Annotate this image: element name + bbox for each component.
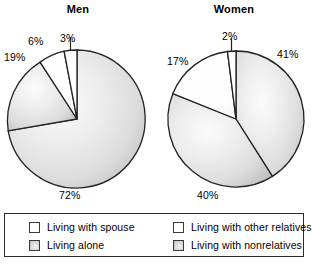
chart-title-men: Men [0, 3, 156, 15]
legend-swatch-icon-nonrelatives [173, 240, 184, 251]
legend-swatch-icon-spouse [29, 222, 40, 233]
legend-item-living-with-nonrelatives: Living with nonrelatives [173, 236, 312, 254]
legend-item-living-with-other-relatives: Living with other relatives [173, 218, 312, 236]
slice-label-men-other-relatives: 6% [28, 35, 43, 47]
slice-label-men-nonrelatives: 3% [60, 32, 75, 44]
slice-label-women-spouse: 41% [277, 48, 298, 60]
legend-label-other-relatives: Living with other relatives [191, 221, 312, 233]
legend-item-living-with-spouse: Living with spouse [29, 218, 135, 236]
slice-label-men-spouse: 72% [59, 189, 80, 201]
legend-swatch-icon-other-relatives [173, 222, 184, 233]
legend-label-spouse: Living with spouse [47, 221, 135, 233]
chart-legend: Living with spouse Living alone Living w… [4, 213, 304, 257]
legend-label-nonrelatives: Living with nonrelatives [191, 239, 302, 251]
slice-label-women-nonrelatives: 2% [222, 30, 237, 42]
slice-label-women-alone: 40% [197, 189, 218, 201]
slice-label-women-other-relatives: 17% [167, 55, 188, 67]
pie-chart-figure: Men Women [0, 0, 312, 265]
legend-item-living-alone: Living alone [29, 236, 135, 254]
legend-swatch-icon-alone [29, 240, 40, 251]
slice-label-men-alone: 19% [4, 51, 25, 63]
legend-column-right: Living with other relatives Living with … [173, 218, 312, 254]
legend-label-alone: Living alone [47, 239, 104, 251]
chart-title-women: Women [156, 3, 312, 15]
legend-column-left: Living with spouse Living alone [29, 218, 135, 254]
